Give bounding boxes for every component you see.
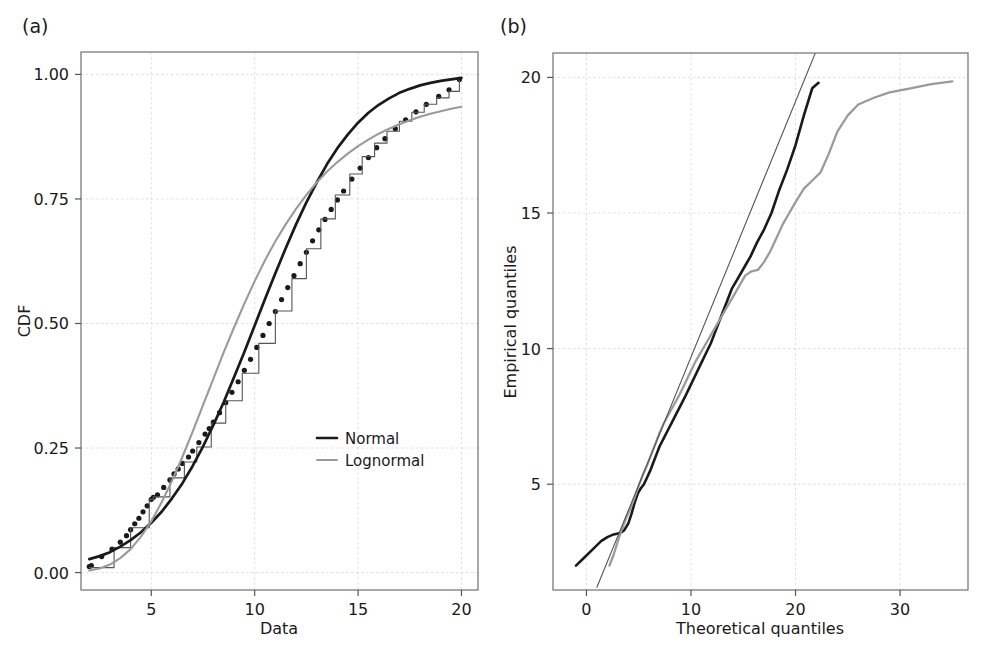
series-normal-q-q bbox=[576, 83, 819, 566]
y-tick-label: 15 bbox=[521, 204, 541, 223]
y-tick-label: 1.00 bbox=[33, 65, 69, 84]
x-tick-label: 30 bbox=[890, 600, 910, 619]
panel-b-y-axis: 5101520 bbox=[521, 68, 553, 494]
panel-a-x-axis-title: Data bbox=[260, 619, 298, 638]
panel-b-y-axis-title: Empirical quantiles bbox=[501, 245, 520, 398]
x-tick-label: 5 bbox=[146, 600, 156, 619]
panel-a-x-axis: 5101520 bbox=[146, 590, 471, 619]
x-tick-label: 0 bbox=[581, 600, 591, 619]
panel-a-label: (a) bbox=[22, 15, 48, 37]
y-tick-label: 0.25 bbox=[33, 439, 69, 458]
panel-a: (a) 0.000.250.500.751.00 5101520 Data CD… bbox=[15, 15, 478, 638]
y-tick-label: 10 bbox=[521, 340, 541, 359]
panel-b: (b) 5101520 0102030 Theoretical quantile… bbox=[500, 15, 968, 638]
panel-a-gridlines bbox=[81, 52, 478, 590]
x-tick-label: 20 bbox=[785, 600, 805, 619]
series-empirical-cdf-data-points- bbox=[87, 77, 462, 569]
figure-canvas: (a) 0.000.250.500.751.00 5101520 Data CD… bbox=[0, 0, 983, 654]
x-tick-label: 10 bbox=[245, 600, 265, 619]
x-tick-label: 20 bbox=[451, 600, 471, 619]
series-empirical-step bbox=[89, 79, 459, 567]
panel-b-label: (b) bbox=[500, 15, 527, 37]
series-lognormal-q-q bbox=[609, 81, 952, 565]
panel-b-x-axis: 0102030 bbox=[581, 590, 910, 619]
panel-b-gridlines bbox=[553, 53, 968, 590]
y-tick-label: 20 bbox=[521, 68, 541, 87]
panel-a-y-axis: 0.000.250.500.751.00 bbox=[33, 65, 81, 582]
panel-a-legend: NormalLognormal bbox=[317, 430, 424, 470]
panel-a-frame bbox=[81, 52, 478, 590]
series-reference-line bbox=[597, 50, 817, 587]
y-tick-label: 5 bbox=[531, 475, 541, 494]
panel-b-frame bbox=[553, 53, 968, 590]
x-tick-label: 10 bbox=[681, 600, 701, 619]
y-tick-label: 0.50 bbox=[33, 314, 69, 333]
legend-label-normal: Normal bbox=[345, 430, 399, 448]
legend-label-lognormal: Lognormal bbox=[345, 452, 424, 470]
panel-b-x-axis-title: Theoretical quantiles bbox=[675, 619, 844, 638]
panel-a-y-axis-title: CDF bbox=[15, 305, 34, 338]
y-tick-label: 0.75 bbox=[33, 190, 69, 209]
y-tick-label: 0.00 bbox=[33, 564, 69, 583]
panel-b-series bbox=[576, 50, 952, 587]
x-tick-label: 15 bbox=[348, 600, 368, 619]
